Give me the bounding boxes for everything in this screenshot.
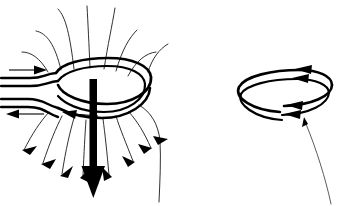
magnetic-field-diagram — [0, 0, 341, 206]
canvas-background — [0, 0, 341, 206]
figure-root: Magnetic field of a current-carrying loo… — [0, 0, 341, 206]
magnetic-moment-shaft — [90, 79, 98, 171]
